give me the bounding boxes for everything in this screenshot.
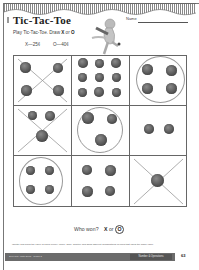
answer-x-option[interactable]: X — [104, 226, 107, 232]
key-x: X—25¢ — [25, 42, 40, 47]
coin — [82, 112, 94, 124]
name-input-line[interactable] — [138, 22, 188, 23]
coin — [95, 73, 104, 82]
standard-note: Identify and know the value of coins (pe… — [12, 243, 172, 246]
coin — [78, 88, 87, 97]
quarter-coin — [21, 85, 32, 96]
footer-credit: Everyday Math Skills · Grade 2 — [9, 255, 42, 258]
coin — [94, 87, 104, 97]
coin — [105, 165, 116, 176]
coin — [151, 174, 164, 187]
cell-r2-c1[interactable] — [72, 156, 129, 207]
cell-r0-c2[interactable] — [130, 56, 187, 105]
o-mark-icon — [136, 56, 185, 103]
instructions-text: Play Tic-Tac-Toe. Draw — [13, 30, 61, 35]
coin — [111, 58, 121, 68]
cell-r1-c2[interactable] — [130, 106, 187, 155]
coin — [45, 111, 55, 121]
cell-r2-c0[interactable] — [14, 156, 71, 207]
coin — [95, 134, 107, 146]
cell-r0-c0[interactable] — [14, 56, 71, 105]
quarter-coin — [166, 83, 177, 94]
answer-or: or — [109, 226, 114, 232]
cell-r1-c1[interactable] — [72, 106, 129, 155]
instructions-o: O — [71, 30, 75, 35]
instructions: Play Tic-Tac-Toe. Draw X or O — [13, 30, 75, 35]
o-mark-icon — [19, 157, 63, 205]
footer-section-tag: Number & Operations — [130, 254, 172, 260]
quarter-coin — [53, 85, 64, 96]
title-marker — [7, 17, 9, 23]
coin — [82, 165, 92, 175]
answer-o-option-circled[interactable]: O — [115, 225, 124, 234]
page-number: 63 — [181, 253, 185, 258]
cell-r1-c0[interactable] — [14, 106, 71, 155]
page-title: Tic-Tac-Toe — [13, 14, 71, 26]
quarter-coin — [142, 64, 153, 75]
instructions-or: or — [64, 30, 71, 35]
coin — [107, 114, 117, 124]
coin — [82, 186, 93, 197]
coin — [112, 88, 121, 97]
coin — [95, 59, 104, 68]
coin — [112, 73, 121, 82]
tic-tac-toe-board — [13, 55, 187, 207]
who-won-label: Who won? — [74, 226, 99, 232]
coin — [78, 58, 88, 68]
who-won-question: Who won? X or O — [0, 225, 198, 234]
key-o: O—40¢ — [53, 42, 69, 47]
kangaroo-mascot-icon — [88, 14, 128, 56]
cell-r2-c2[interactable] — [130, 156, 187, 207]
coin — [28, 111, 37, 120]
quarter-coin — [53, 63, 63, 73]
quarter-coin — [20, 62, 31, 73]
coin — [26, 185, 35, 194]
name-label: Name — [126, 16, 137, 21]
quarter-coin — [166, 65, 177, 76]
coin — [164, 124, 174, 134]
coin — [78, 73, 87, 82]
coin — [45, 166, 54, 175]
coin — [105, 186, 115, 196]
coin — [144, 124, 154, 134]
coin — [36, 130, 48, 142]
coin — [26, 166, 35, 175]
cell-r0-c1[interactable] — [72, 56, 129, 105]
coin — [45, 185, 54, 194]
quarter-coin — [142, 83, 153, 94]
